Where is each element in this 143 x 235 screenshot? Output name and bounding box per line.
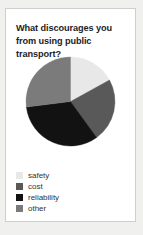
legend-swatch-safety [16,172,23,179]
screenshot-root: What discourages you from using public t… [0,0,143,235]
pie-slice-group [26,57,115,146]
legend-label-other: other [28,203,46,214]
pie-slice-other[interactable] [26,57,71,107]
legend-item-cost[interactable]: cost [15,181,125,192]
pie-chart [6,49,135,154]
legend-item-safety[interactable]: safety [15,170,125,181]
legend-label-safety: safety [28,170,49,181]
chart-card: What discourages you from using public t… [5,8,136,222]
legend-swatch-other [16,205,23,212]
pie-chart-svg [6,49,135,154]
legend-label-cost: cost [28,181,43,192]
legend-label-reliability: reliability [28,192,59,203]
legend-item-reliability[interactable]: reliability [15,192,125,203]
legend-swatch-cost [16,183,23,190]
chart-legend: safety cost reliability other [15,170,125,214]
legend-item-other[interactable]: other [15,203,125,214]
legend-swatch-reliability [16,194,23,201]
